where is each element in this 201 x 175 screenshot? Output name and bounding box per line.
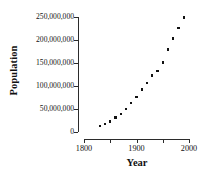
data-point: [130, 102, 132, 104]
data-point: [146, 82, 148, 84]
data-point: [156, 70, 158, 72]
data-point: [135, 96, 137, 98]
data-point: [141, 88, 143, 90]
data-point: [151, 74, 153, 76]
data-point: [177, 27, 179, 29]
data-point: [183, 16, 185, 18]
data-point: [109, 120, 111, 122]
data-point: [104, 123, 106, 125]
data-point: [167, 48, 169, 50]
data-point: [125, 108, 127, 110]
plot-area: [0, 0, 201, 175]
data-point: [162, 61, 164, 63]
data-point: [99, 125, 101, 127]
data-point: [172, 37, 174, 39]
data-point: [120, 113, 122, 115]
data-point: [114, 116, 116, 118]
x-axis-title: Year: [82, 157, 192, 168]
population-scatter-chart: Population 050,000,000100,000,000150,000…: [0, 0, 201, 175]
